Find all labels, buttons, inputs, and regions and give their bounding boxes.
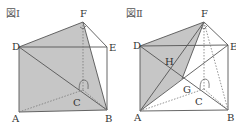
label-F: F: [80, 8, 87, 19]
label-B: B: [227, 112, 234, 123]
figure-1: 図Ⅰ D F E A B C: [6, 8, 116, 124]
figure-2-title: 図Ⅱ: [126, 8, 143, 19]
label-A: A: [133, 112, 142, 123]
label-E: E: [230, 41, 236, 52]
figure-1-title: 図Ⅰ: [6, 8, 20, 19]
label-D: D: [133, 40, 141, 51]
triangular-prism-diagrams: 図Ⅰ D F E A B C 図Ⅱ: [0, 0, 236, 125]
shaded-region: [19, 22, 107, 112]
label-H: H: [165, 56, 174, 67]
label-G: G: [183, 84, 191, 95]
label-C: C: [195, 96, 203, 107]
figure-2: 図Ⅱ D F E A B C G H: [126, 8, 236, 123]
label-F: F: [201, 8, 208, 19]
label-D: D: [12, 41, 20, 52]
label-C: C: [73, 97, 81, 108]
label-A: A: [11, 113, 20, 124]
label-E: E: [109, 42, 116, 53]
label-B: B: [105, 113, 112, 124]
